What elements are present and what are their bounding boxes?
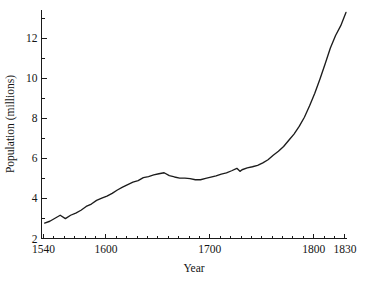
x-tick-label: 1700 <box>198 243 221 255</box>
y-axis-title: Population (millions) <box>4 75 17 173</box>
y-tick-label: 6 <box>32 152 38 164</box>
y-tick-label: 4 <box>32 192 38 204</box>
x-axis-title: Year <box>183 262 204 274</box>
population-line-chart: 24681012 Population (millions) 154016001… <box>0 0 366 286</box>
x-tick-label: 1600 <box>94 243 117 255</box>
y-tick-label: 8 <box>32 112 38 124</box>
x-tick-label: 1800 <box>302 243 325 255</box>
chart-page: 24681012 Population (millions) 154016001… <box>0 0 366 286</box>
x-tick-label: 1830 <box>333 243 356 255</box>
x-tick-label: 1540 <box>32 243 55 255</box>
y-tick-label: 10 <box>26 72 38 84</box>
y-tick-label: 12 <box>26 32 38 44</box>
